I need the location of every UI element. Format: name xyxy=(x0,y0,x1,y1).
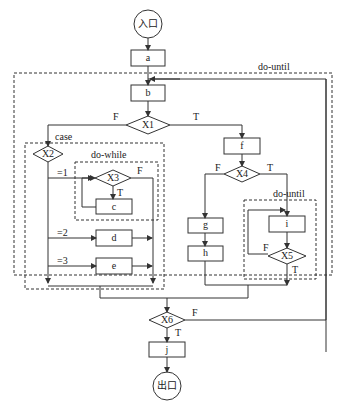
node-i-label: i xyxy=(269,219,305,229)
x2-case3-label: =3 xyxy=(57,256,68,266)
node-x3-label: X3 xyxy=(99,173,127,183)
node-e-label: e xyxy=(96,261,132,271)
x5-true-label: T xyxy=(292,265,298,275)
x3-true-label: T xyxy=(117,188,123,198)
exit-label: 出口 xyxy=(153,381,181,391)
flowchart-canvas: 入口 a b X1 X2 X3 c d e f X4 g h i X5 X6 j… xyxy=(0,0,344,413)
x6-true-label: T xyxy=(175,328,181,338)
inner-do-until-region xyxy=(244,200,316,279)
outer-do-until-label: do-until xyxy=(258,62,290,72)
node-x6-label: X6 xyxy=(153,315,181,325)
x4-true-label: T xyxy=(267,163,273,173)
case-region xyxy=(25,143,164,289)
x1-true-label: T xyxy=(193,112,199,122)
node-x1-label: X1 xyxy=(132,120,164,130)
x2-case1-label: =1 xyxy=(57,168,68,178)
x2-case2-label: =2 xyxy=(57,228,68,238)
do-while-label: do-while xyxy=(91,150,127,160)
node-c-label: c xyxy=(96,202,132,212)
node-a-label: a xyxy=(131,53,165,63)
entry-label: 入口 xyxy=(134,19,162,29)
node-x4-label: X4 xyxy=(228,169,256,179)
x3-false-label: F xyxy=(137,166,143,176)
node-h-label: h xyxy=(188,248,223,258)
x1-false-label: F xyxy=(113,112,119,122)
node-j-label: j xyxy=(149,345,185,355)
x6-false-label: F xyxy=(192,308,198,318)
node-b-label: b xyxy=(131,88,165,98)
node-d-label: d xyxy=(96,233,132,243)
x4-false-label: F xyxy=(215,163,221,173)
node-x2-label: X2 xyxy=(34,149,62,159)
node-f-label: f xyxy=(224,141,260,151)
node-x5-label: X5 xyxy=(273,251,301,261)
node-g-label: g xyxy=(188,220,223,230)
inner-do-until-label: do-until xyxy=(273,189,305,199)
x5-false-label: F xyxy=(263,243,269,253)
case-label: case xyxy=(55,132,72,142)
